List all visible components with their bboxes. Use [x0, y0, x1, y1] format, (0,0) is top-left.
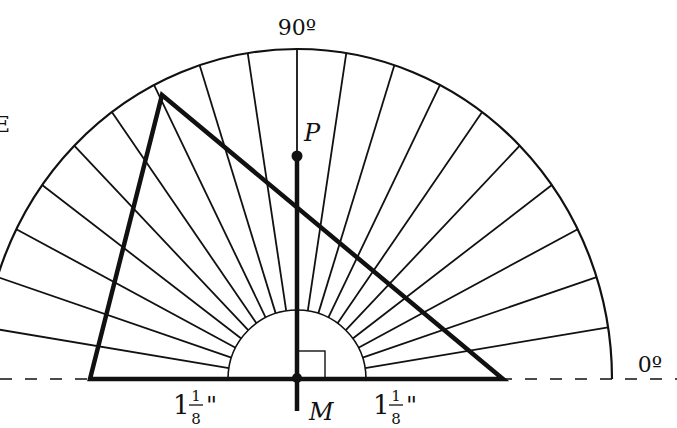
protractor-ray-162: [0, 277, 231, 358]
left-denominator: 8: [191, 410, 201, 428]
protractor-ray-171: [0, 327, 229, 368]
protractor-ray-45: [346, 146, 520, 331]
label-left-half-length: 1 1 8 ": [173, 387, 217, 428]
left-numerator: 1: [191, 387, 201, 405]
label-right-half-length: 1 1 8 ": [373, 387, 417, 428]
protractor-ray-153: [16, 229, 235, 347]
protractor-ray-117: [154, 85, 266, 318]
right-whole: 1: [373, 390, 390, 420]
protractor-ray-36: [353, 185, 552, 338]
label-P: P: [303, 119, 321, 147]
label-M: M: [308, 398, 335, 426]
protractor-ray-9: [365, 327, 608, 368]
left-unit: ": [206, 392, 217, 420]
right-unit: ": [406, 392, 417, 420]
protractor-ray-144: [42, 185, 241, 338]
protractor-diagram: 90º 0º P M 1 1 8 " 1 1 8 " E: [0, 0, 677, 428]
label-90-degrees: 90º: [278, 15, 316, 40]
protractor-ray-81: [308, 53, 346, 311]
right-denominator: 8: [391, 410, 401, 428]
right-numerator: 1: [391, 387, 401, 405]
protractor-ray-126: [112, 112, 257, 323]
label-0-degrees: 0º: [638, 352, 662, 377]
protractor-ray-54: [338, 112, 483, 323]
protractor-ray-135: [74, 146, 248, 331]
point-P: [292, 151, 303, 162]
protractor-ray-108: [200, 65, 276, 313]
partial-left-label: E: [0, 112, 10, 137]
point-M: [292, 373, 302, 383]
left-whole: 1: [173, 390, 190, 420]
